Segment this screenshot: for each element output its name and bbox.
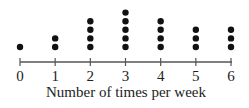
x-tick-label: 0 xyxy=(16,68,24,84)
x-tick-label: 2 xyxy=(87,68,95,84)
data-dot xyxy=(52,44,58,50)
data-dot xyxy=(157,44,163,50)
data-dot xyxy=(228,35,234,41)
data-dot xyxy=(193,44,199,50)
data-dot xyxy=(157,27,163,33)
x-tick-label: 3 xyxy=(122,68,130,84)
dot-series xyxy=(17,9,234,50)
data-dot xyxy=(122,35,128,41)
data-dot xyxy=(228,44,234,50)
data-dot xyxy=(17,44,23,50)
x-axis-tick-labels: 0123456 xyxy=(16,68,235,84)
data-dot xyxy=(87,27,93,33)
x-tick-label: 5 xyxy=(192,68,200,84)
data-dot xyxy=(193,35,199,41)
data-dot xyxy=(122,44,128,50)
data-dot xyxy=(87,44,93,50)
x-tick-label: 1 xyxy=(51,68,59,84)
data-dot xyxy=(228,27,234,33)
data-dot xyxy=(122,18,128,24)
data-dot xyxy=(52,35,58,41)
data-dot xyxy=(193,27,199,33)
x-tick-label: 4 xyxy=(157,68,165,84)
x-tick-label: 6 xyxy=(227,68,235,84)
data-dot xyxy=(122,27,128,33)
data-dot xyxy=(157,35,163,41)
data-dot xyxy=(87,18,93,24)
data-dot xyxy=(122,9,128,15)
x-axis-label: Number of times per week xyxy=(46,84,206,100)
data-dot xyxy=(87,35,93,41)
dot-plot: 0123456 Number of times per week xyxy=(0,0,249,108)
data-dot xyxy=(157,18,163,24)
